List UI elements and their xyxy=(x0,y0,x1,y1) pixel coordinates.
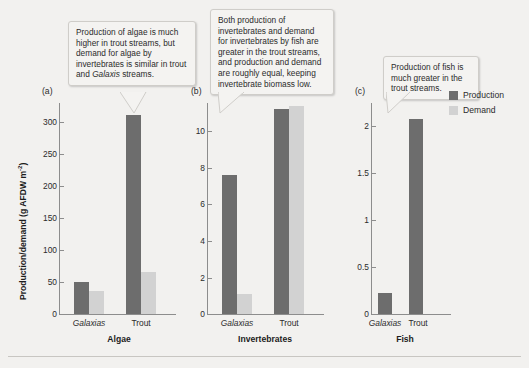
y-axis-label-exponent: -2 xyxy=(17,166,23,171)
panel-a-ticklabel-50: 50 xyxy=(32,277,57,287)
panel-b-ticklabel-6: 6 xyxy=(182,199,205,209)
panel-a-ticklabel-200: 200 xyxy=(32,181,57,191)
panel-b-ticklabel-8: 8 xyxy=(182,163,205,173)
panel-a-x-axis xyxy=(59,314,176,315)
panel-b-ticklabel-4: 4 xyxy=(182,236,205,246)
panel-b-y-axis xyxy=(207,103,208,314)
panel-b-tick-8 xyxy=(208,168,212,169)
panel-b-ticklabel-2: 2 xyxy=(182,273,205,283)
legend-swatch-production-icon xyxy=(449,91,458,100)
panel-c-bar-trout-production xyxy=(409,119,423,314)
panel-b-bar-galaxias-demand xyxy=(237,294,252,314)
panel-b-xlabel-galaxias: Galaxias xyxy=(210,318,264,328)
panel-a-ticklabel-100: 100 xyxy=(32,245,57,255)
panel-b-tick-4 xyxy=(208,241,212,242)
callout-fish-tail xyxy=(386,92,422,114)
callout-invertebrates-tail xyxy=(218,92,258,114)
panel-c-ticklabel-1p5: 1.5 xyxy=(344,168,369,178)
panel-c-x-axis xyxy=(371,314,451,315)
panel-a-title: Algae xyxy=(74,334,164,344)
panel-a-ticklabel-250: 250 xyxy=(32,149,57,159)
panel-c-tick-2 xyxy=(372,126,376,127)
callout-invertebrates: Both production of invertebrates and dem… xyxy=(210,9,334,95)
panel-c-bar-galaxias-production xyxy=(378,293,392,314)
callout-algae-text: Production of algae is much higher in tr… xyxy=(76,27,186,79)
panel-c-tick-0p5 xyxy=(372,267,376,268)
y-axis-label: Production/demand (g AFDW m-2) xyxy=(17,163,28,300)
panel-b-ticklabel-0: 0 xyxy=(182,309,205,319)
panel-b-x-axis xyxy=(207,314,324,315)
panel-c-ticklabel-0p5: 0.5 xyxy=(344,262,369,272)
callout-algae-tail xyxy=(120,92,160,114)
panel-a-xlabel-galaxias: Galaxias xyxy=(62,318,116,328)
panel-b-title: Invertebrates xyxy=(212,334,318,344)
panel-a-letter: (a) xyxy=(42,86,53,96)
panel-a-bar-galaxias-production xyxy=(74,282,89,314)
callout-invertebrates-text: Both production of invertebrates and dem… xyxy=(218,15,321,89)
panel-b-letter: (b) xyxy=(191,86,202,96)
panel-b-ticklabel-10: 10 xyxy=(182,126,205,136)
panel-c-tick-1 xyxy=(372,220,376,221)
y-axis-label-text: Production/demand (g AFDW m xyxy=(18,171,28,300)
panel-c-ticklabel-2: 2 xyxy=(344,121,369,131)
panel-a-ticklabel-0: 0 xyxy=(32,309,57,319)
legend-swatch-demand-icon xyxy=(449,106,458,115)
panel-c-title: Fish xyxy=(380,334,430,344)
panel-a-xlabel-trout: Trout xyxy=(117,318,165,328)
panel-c-y-axis xyxy=(371,103,372,314)
panel-b-tick-6 xyxy=(208,204,212,205)
legend-label-demand: Demand xyxy=(463,105,495,115)
panel-c-letter: (c) xyxy=(355,86,365,96)
panel-b-bar-trout-demand xyxy=(289,106,304,314)
panel-a-tick-250 xyxy=(60,154,64,155)
panel-b-xlabel-trout: Trout xyxy=(265,318,313,328)
footer-divider xyxy=(8,356,521,357)
legend-label-production: Production xyxy=(463,90,504,100)
panel-a-tick-150 xyxy=(60,218,64,219)
panel-a-ticklabel-150: 150 xyxy=(32,213,57,223)
panel-c-tick-1p5 xyxy=(372,173,376,174)
panel-a-bar-galaxias-demand xyxy=(89,291,104,314)
y-axis-label-paren: ) xyxy=(18,163,28,166)
panel-a-bar-trout-demand xyxy=(141,272,156,314)
panel-b-tick-10 xyxy=(208,131,212,132)
figure-canvas: Production of algae is much higher in tr… xyxy=(0,0,529,368)
panel-a-tick-300 xyxy=(60,122,64,123)
panel-b-bar-galaxias-production xyxy=(222,175,237,314)
panel-a-tick-100 xyxy=(60,250,64,251)
panel-c-ticklabel-1: 1 xyxy=(344,215,369,225)
panel-c-xlabel-trout: Trout xyxy=(403,318,433,328)
panel-a-tick-50 xyxy=(60,282,64,283)
panel-b-bar-trout-production xyxy=(274,109,289,314)
panel-a-ticklabel-300: 300 xyxy=(32,117,57,127)
callout-fish-text: Production of fish is much greater in th… xyxy=(391,62,463,93)
panel-a-tick-200 xyxy=(60,186,64,187)
panel-b-tick-2 xyxy=(208,278,212,279)
panel-c-xlabel-galaxias: Galaxias xyxy=(364,318,406,328)
panel-a-bar-trout-production xyxy=(126,115,141,314)
callout-algae: Production of algae is much higher in tr… xyxy=(68,21,196,86)
